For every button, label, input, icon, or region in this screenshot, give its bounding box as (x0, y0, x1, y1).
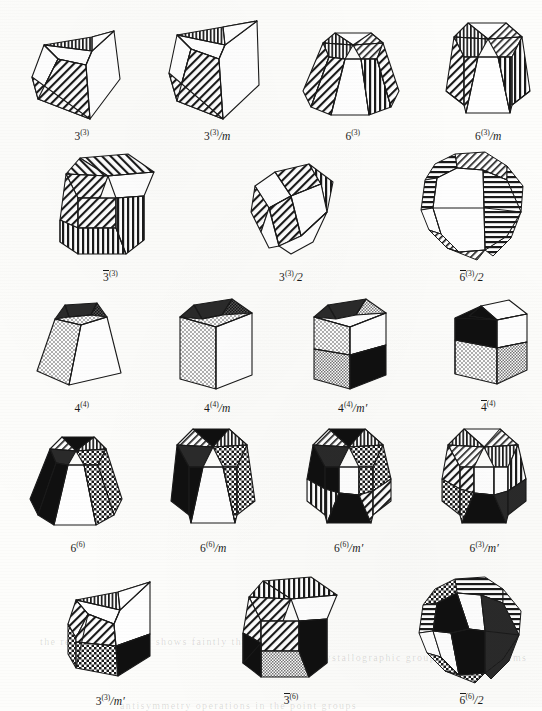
figure-cell[interactable]: 3(3)/m′ (35, 572, 185, 707)
figure-cell[interactable]: 6(6)/m (151, 423, 275, 554)
figure-cell[interactable]: 6(6)/2 (397, 573, 542, 707)
figure-label: 6(6) (70, 541, 85, 554)
figure-label: 3(6) (284, 693, 299, 707)
figure-label: 6(3)/m′ (470, 541, 499, 554)
figure-label: 6(6)/m′ (334, 541, 363, 554)
fig-6bar-3-over-2-art (411, 146, 533, 268)
figure-cell[interactable]: 3(3) (23, 15, 141, 142)
label-suffix: /m′ (349, 542, 364, 554)
fig-6-3-art (299, 15, 407, 127)
fig-6-3-over-m-art (434, 15, 542, 127)
label-suffix: /2 (474, 271, 483, 283)
figure-row-4: 6(6) (0, 414, 542, 555)
fig-3bar-3-art (52, 150, 168, 268)
figure-cell[interactable]: 4(4) (23, 293, 141, 414)
figure-label: 3(3) (74, 129, 89, 142)
fig-3-3-over-m-art (163, 15, 271, 127)
label-suffix: /m′ (110, 694, 125, 706)
label-superscript: (4) (344, 400, 353, 409)
label-suffix: /m′ (484, 542, 499, 554)
figure-cell[interactable]: 4(4) (429, 292, 542, 414)
label-suffix: /m (219, 130, 231, 142)
figure-label: 6(6)/m (200, 541, 227, 554)
figure-cell[interactable]: 6(3)/m′ (422, 423, 542, 554)
figure-row-3: 4(4) (0, 283, 542, 414)
label-superscript: (3) (476, 540, 485, 549)
figure-cell[interactable]: 4(4)/m′ (294, 293, 412, 414)
label-suffix: /m (490, 130, 502, 142)
figure-cell[interactable]: 6(3)/2 (397, 146, 542, 284)
figure-cell[interactable]: 3(3)/2 (216, 150, 366, 283)
label-superscript: (3) (466, 269, 475, 278)
figure-label: 3(3)/m′ (96, 694, 125, 707)
label-superscript: (6) (290, 693, 299, 702)
figure-cell[interactable]: 4(4)/m (158, 293, 276, 414)
fig-4bar-4-art (435, 292, 541, 398)
figure-cell[interactable]: 3(6) (216, 571, 366, 707)
figure-cell[interactable]: 6(3) (294, 15, 412, 142)
label-superscript: (3) (109, 269, 118, 278)
fig-4-4-over-mprime-art (300, 293, 406, 399)
fig-4-4-art (29, 293, 135, 399)
label-superscript: (6) (76, 540, 85, 549)
fig-3bar-6-art (233, 571, 349, 691)
figure-label: 3(3)/m (204, 129, 231, 142)
label-superscript: (3) (80, 128, 89, 137)
figure-row-1: 3(3) (0, 0, 542, 143)
fig-6-6-over-mprime-art (295, 423, 403, 539)
fig-4-4-over-m-art (164, 293, 270, 399)
figure-label: 6(3)/m (475, 129, 502, 142)
fig-6-6-over-m-art (159, 423, 267, 539)
label-superscript: (4) (210, 400, 219, 409)
label-superscript: (6) (466, 693, 475, 702)
figure-label: 3(3)/2 (279, 270, 303, 283)
figure-label: 3(3) (103, 270, 118, 284)
fig-6-6-art (24, 423, 132, 539)
label-suffix: /m (219, 401, 231, 413)
label-superscript: (3) (210, 128, 219, 137)
figure-cell[interactable]: 6(6)/m′ (287, 423, 411, 554)
fig-6bar-6-over-2-art (411, 573, 533, 691)
figure-cell[interactable]: 3(3)/m (158, 15, 276, 142)
figure-label: 4(4)/m′ (338, 401, 367, 414)
figure-cell[interactable]: 6(6) (16, 423, 140, 554)
figure-row-5: 3(3)/m′ (0, 554, 542, 707)
label-suffix: /2 (294, 271, 303, 283)
fig-3-3-over-mprime-art (54, 572, 166, 692)
figure-cell[interactable]: 6(3)/m (429, 15, 542, 142)
figure-label: 6(3)/2 (460, 270, 484, 284)
figure-cell[interactable]: 3(3) (35, 150, 185, 284)
label-superscript: (3) (481, 128, 490, 137)
figure-label: 4(4) (481, 400, 496, 414)
figure-label: 6(6)/2 (460, 693, 484, 707)
label-superscript: (3) (351, 128, 360, 137)
label-superscript: (6) (206, 540, 215, 549)
figure-label: 6(3) (345, 129, 360, 142)
fig-3-3-art (28, 15, 136, 127)
fig-6-3-over-mprime-art (430, 423, 538, 539)
figure-label: 4(4)/m (204, 401, 231, 414)
label-suffix: /m (215, 542, 227, 554)
figure-label: 4(4) (74, 401, 89, 414)
label-superscript: (4) (487, 400, 496, 409)
label-superscript: (3) (285, 269, 294, 278)
label-superscript: (4) (80, 400, 89, 409)
fig-3-3-over-2-art (235, 150, 347, 268)
label-superscript: (6) (340, 540, 349, 549)
label-suffix: /m′ (353, 401, 368, 413)
figure-row-2: 3(3) (0, 143, 542, 284)
label-suffix: /2 (474, 694, 483, 706)
